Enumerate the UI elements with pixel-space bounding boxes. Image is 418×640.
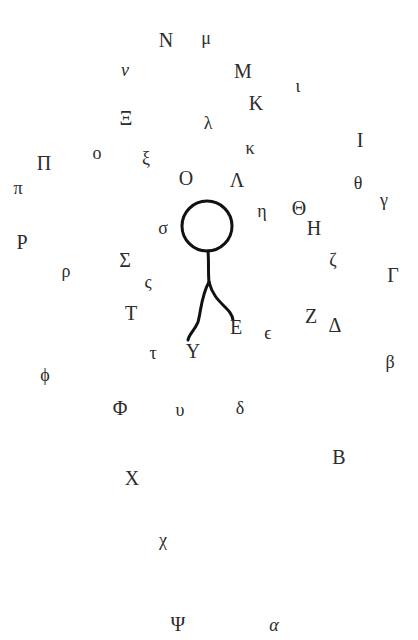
greek-letter-gamma-lower: γ: [380, 191, 388, 209]
greek-letter-nu-upper: N: [159, 30, 173, 50]
greek-letter-eta-upper: Η: [307, 218, 321, 238]
greek-letter-phi-lower: ϕ: [40, 366, 49, 384]
greek-letter-xi-upper: Ξ: [120, 108, 133, 128]
greek-letter-pi-upper: Π: [37, 153, 51, 173]
greek-letter-rho-upper: Ρ: [16, 232, 27, 252]
greek-letter-mu-upper: M: [234, 61, 252, 81]
greek-letter-iota-upper: Ι: [357, 130, 364, 150]
greek-letter-omicron-lower: ο: [93, 144, 102, 162]
greek-letter-zeta-lower: ζ: [329, 251, 336, 269]
greek-letter-epsilon-upper: Ε: [230, 317, 242, 337]
greek-letter-beta-upper: Β: [332, 447, 345, 467]
greek-letter-theta-upper: Θ: [292, 198, 306, 218]
greek-letter-nu-lower: ν: [121, 61, 129, 79]
greek-letter-zeta-upper: Ζ: [305, 306, 317, 326]
greek-letter-kappa-upper: K: [249, 93, 263, 113]
greek-letter-theta-lower: θ: [354, 174, 363, 192]
greek-letter-chi-upper: Χ: [125, 468, 139, 488]
greek-letter-final-sigma: ς: [144, 273, 151, 291]
greek-letter-beta-lower: β: [385, 353, 394, 371]
greek-letter-psi-upper: Ψ: [171, 614, 186, 634]
greek-letter-gamma-upper: Γ: [387, 265, 399, 285]
stick-figure-drawing: [0, 0, 418, 640]
greek-letter-upsilon-upper: Υ: [186, 341, 200, 361]
figure-trunk-line: [208, 251, 209, 282]
greek-letter-sigma-lower: σ: [158, 219, 168, 237]
greek-letter-alpha-lower: α: [269, 616, 278, 634]
greek-letter-eta-lower: η: [257, 202, 266, 220]
greek-letter-pi-lower: π: [13, 179, 22, 197]
figure-head-circle: [182, 201, 232, 251]
greek-letter-upsilon-lower: υ: [176, 401, 185, 419]
greek-letter-mu-lower: μ: [201, 29, 211, 47]
greek-letter-xi-lower: ξ: [142, 149, 150, 167]
greek-letter-epsilon-lower: ϵ: [264, 324, 271, 342]
greek-letter-phi-upper: Φ: [113, 398, 128, 418]
greek-letter-delta-lower: δ: [236, 399, 244, 417]
greek-letter-kappa-lower: κ: [245, 139, 254, 157]
greek-letter-tau-lower: τ: [149, 344, 156, 362]
figure-right-branch-line: [209, 282, 233, 320]
greek-letter-lambda-upper: Λ: [230, 170, 245, 190]
greek-letter-tau-upper: Τ: [125, 303, 137, 323]
greek-letter-chi-lower: χ: [159, 531, 167, 549]
greek-letter-delta-upper: Δ: [329, 315, 342, 335]
figure-left-branch-line: [188, 282, 209, 340]
greek-letter-sigma-upper: Σ: [119, 250, 131, 270]
greek-letter-lambda-lower: λ: [204, 114, 213, 132]
greek-letter-rho-lower: ρ: [62, 262, 71, 280]
greek-letter-iota-lower: ι: [296, 77, 301, 95]
greek-letter-omicron-upper: Ο: [179, 168, 193, 188]
diagram-canvas: NμνMιKΞλοξκΙΠπΟΛθγηΘΗσΡρΣςζΓΤΕΖΔϵΥτβϕΦυδ…: [0, 0, 418, 640]
